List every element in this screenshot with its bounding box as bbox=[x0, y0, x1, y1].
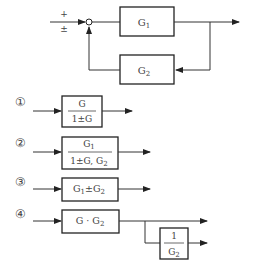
option-4-branch-line bbox=[145, 221, 160, 243]
block-diagram: + ± G1 G2 ① G 1±G ② G1 1±G, bbox=[0, 0, 266, 272]
main-feedback-system: + ± G1 G2 bbox=[50, 7, 239, 84]
option-1-numerator: G bbox=[78, 99, 85, 109]
option-2: ② G1 1±G, G2 bbox=[15, 136, 151, 169]
option-4: ④ G · G2 1 G2 bbox=[15, 207, 208, 259]
option-1-denominator: 1±G bbox=[72, 114, 92, 124]
option-marker-3: ③ bbox=[15, 175, 26, 189]
option-marker-2: ② bbox=[15, 136, 26, 150]
feedback-return-arrow bbox=[89, 27, 120, 70]
plus-minus-sign: ± bbox=[60, 24, 68, 34]
option-marker-1: ① bbox=[15, 95, 26, 109]
option-4-branch-numerator: 1 bbox=[171, 231, 177, 241]
option-marker-4: ④ bbox=[15, 207, 26, 221]
option-3: ③ G1±G2 bbox=[15, 175, 151, 201]
summing-junction-icon bbox=[86, 19, 92, 25]
plus-sign: + bbox=[60, 9, 68, 19]
option-1: ① G 1±G bbox=[15, 95, 133, 127]
feedback-path-to-g2 bbox=[176, 22, 210, 70]
